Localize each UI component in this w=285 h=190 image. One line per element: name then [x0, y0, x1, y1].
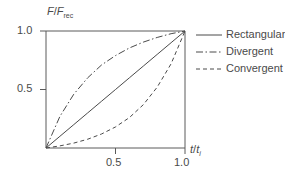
legend-item-divergent: Divergent — [196, 43, 284, 60]
curve-rectangular — [46, 31, 185, 148]
legend-item-rectangular: Rectangular — [196, 26, 284, 43]
y-axis-tick-label-top: 1.0 — [17, 25, 32, 36]
legend-label-convergent: Convergent — [226, 63, 283, 74]
legend-item-convergent: Convergent — [196, 60, 284, 77]
legend-line-sample-solid — [196, 30, 222, 40]
y-axis-title-denominator: F — [57, 5, 64, 17]
x-axis-title: t/ti — [190, 144, 201, 157]
legend-label-rectangular: Rectangular — [226, 29, 285, 40]
legend-line-sample-dash-dot — [196, 47, 222, 57]
x-axis-tick-label-mid: 0.5 — [106, 157, 121, 168]
y-axis-tick-label-mid: 0.5 — [17, 83, 32, 94]
legend-line-sample-dashed — [196, 64, 222, 74]
y-axis-title-subscript: rec — [64, 12, 74, 19]
x-axis-title-subscript: i — [199, 150, 201, 157]
y-axis-title-numerator: F — [47, 5, 54, 17]
legend-label-divergent: Divergent — [226, 46, 273, 57]
chart-legend: Rectangular Divergent Convergent — [196, 26, 284, 77]
x-axis-tick-label-max: 1.0 — [174, 157, 189, 168]
y-axis-title: F/Frec — [47, 6, 73, 19]
chart-figure: 1.0 0.5 0.5 1.0 F/Frec t/ti Rectangular — [0, 0, 285, 190]
